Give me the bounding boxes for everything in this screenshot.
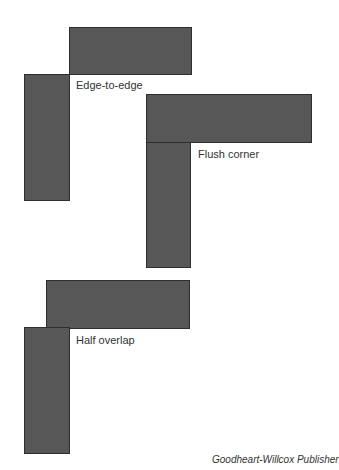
label-flush-corner: Flush corner	[198, 149, 259, 160]
vertical-board-half-overlap	[24, 327, 70, 454]
label-edge-to-edge: Edge-to-edge	[76, 80, 143, 91]
publisher-credit: Goodheart-Willcox Publisher	[212, 455, 339, 465]
vertical-board-flush-corner	[146, 142, 191, 268]
horizontal-board-half-overlap	[46, 280, 190, 329]
label-half-overlap: Half overlap	[76, 335, 135, 346]
horizontal-board-flush-corner	[146, 94, 312, 143]
vertical-board-edge-to-edge	[24, 74, 70, 201]
horizontal-board-edge-to-edge	[69, 27, 192, 75]
